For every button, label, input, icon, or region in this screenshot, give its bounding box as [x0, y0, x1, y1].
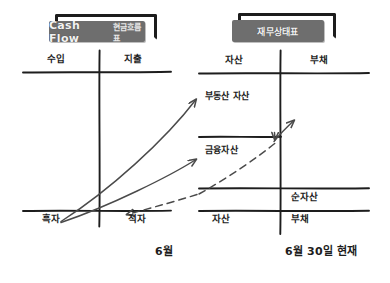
- left-footer-surplus: 흑자: [42, 214, 60, 224]
- diagram-canvas: Cash Flow 현금흐름표 재무상태표: [0, 0, 390, 283]
- right-taccount: [199, 51, 369, 235]
- right-caption-period: 6월 30일 현재: [285, 246, 357, 257]
- right-footer-liabilities: 부채: [291, 214, 309, 224]
- annotation-financial-assets: 금융자산: [205, 146, 238, 155]
- right-row-net-assets: 순자산: [291, 192, 319, 202]
- flow-arrows: [61, 100, 294, 223]
- left-top-rule: [23, 72, 171, 73]
- left-taccount: [23, 51, 171, 227]
- left-header-expense: 지출: [124, 54, 142, 64]
- left-footer-deficit: 적자: [128, 214, 146, 224]
- right-top-rule: [199, 73, 369, 74]
- right-header-liabilities: 부채: [310, 55, 328, 65]
- right-header-assets: 자산: [225, 55, 243, 65]
- arrow-surplus-to-real-estate: [61, 100, 196, 222]
- left-header-income: 수입: [47, 54, 65, 64]
- left-caption-period: 6월: [155, 246, 173, 257]
- annotation-real-estate-assets: 부동산 자산: [205, 92, 249, 101]
- right-footer-assets: 자산: [212, 214, 230, 224]
- line-work-layer: [0, 0, 390, 283]
- arrow-netasset-up: [274, 121, 294, 142]
